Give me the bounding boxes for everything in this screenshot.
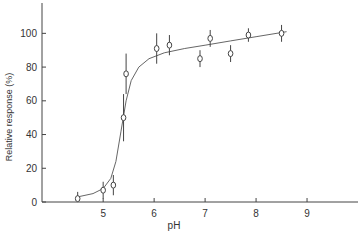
data-point — [198, 56, 203, 62]
x-tick-label: 8 — [253, 208, 259, 219]
data-point — [154, 46, 159, 52]
y-tick-label: 40 — [26, 129, 38, 140]
y-tick-label: 80 — [26, 62, 38, 73]
x-axis-label: pH — [168, 220, 181, 231]
data-point — [111, 182, 116, 188]
data-point — [75, 196, 80, 202]
x-tick-label: 5 — [100, 208, 106, 219]
x-tick-label: 7 — [202, 208, 208, 219]
data-point — [101, 187, 106, 193]
x-tick-label: 9 — [304, 208, 310, 219]
data-points-layer — [75, 25, 283, 202]
fit-curve-layer — [78, 32, 287, 197]
data-point — [167, 42, 172, 48]
data-point — [208, 35, 213, 41]
chart: 56789020406080100 pH Relative response (… — [0, 0, 359, 235]
fit-curve — [78, 32, 287, 197]
y-tick-label: 100 — [20, 28, 37, 39]
y-axis-label: Relative response (%) — [4, 73, 14, 162]
y-tick-label: 60 — [26, 95, 38, 106]
y-tick-label: 0 — [31, 197, 37, 208]
x-tick-label: 6 — [151, 208, 157, 219]
data-point — [246, 32, 251, 38]
data-point — [121, 115, 126, 121]
y-tick-label: 20 — [26, 163, 38, 174]
data-point — [124, 71, 129, 77]
data-point — [279, 30, 284, 36]
data-point — [228, 51, 233, 57]
axes: 56789020406080100 — [20, 3, 358, 219]
